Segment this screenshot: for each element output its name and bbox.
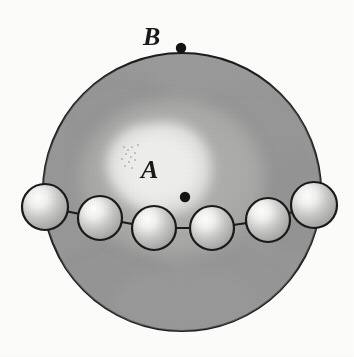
label-a: A (141, 157, 158, 183)
chain-sphere-2 (78, 196, 122, 240)
chain-sphere-5 (246, 198, 290, 242)
chain-sphere-6 (291, 182, 337, 228)
chain-sphere-3 (132, 206, 176, 250)
figure-canvas (0, 0, 354, 357)
figure-container: B A (0, 0, 354, 357)
dot-a-marker (180, 192, 190, 202)
label-b: B (143, 24, 160, 50)
chain-sphere-4 (190, 206, 234, 250)
chain-sphere-1 (22, 184, 68, 230)
dot-b-marker (176, 43, 186, 53)
